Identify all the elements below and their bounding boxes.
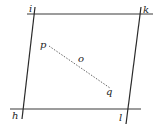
label-q: q [106,86,112,97]
right-line [126,7,141,124]
parallelogram-diagram: i k h l p o q [0,0,157,131]
label-k: k [143,4,149,15]
label-i: i [29,3,32,14]
label-p: p [40,39,47,50]
label-h: h [12,110,18,121]
label-o: o [78,53,84,64]
left-line [22,7,35,119]
label-l: l [119,112,122,123]
